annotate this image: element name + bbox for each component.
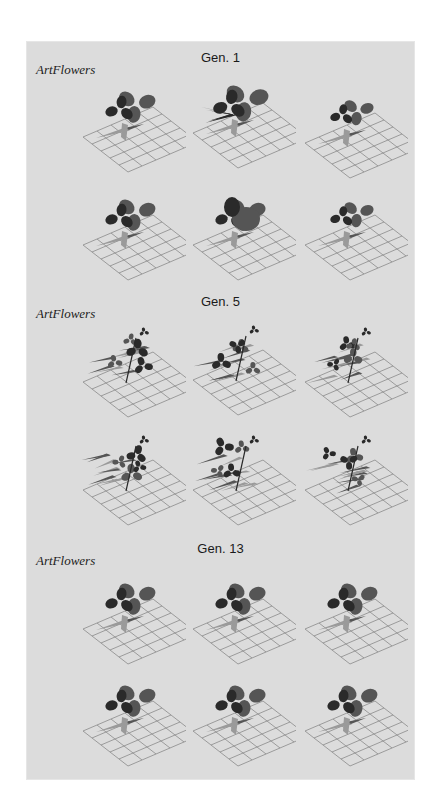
flower-specimen: [66, 181, 186, 291]
flower-render: [66, 426, 186, 536]
flower-render: [288, 181, 408, 291]
flower-specimen: [176, 667, 296, 777]
flower-specimen: [66, 565, 186, 675]
flower-specimen: [176, 426, 296, 536]
flower-render: [288, 565, 408, 675]
flower-render: [288, 667, 408, 777]
figure-panel: Gen. 1 ArtFlowers Gen. 5 ArtFlowers Gen.…: [26, 41, 415, 780]
flower-specimen: [288, 426, 408, 536]
flower-specimen: [288, 181, 408, 291]
flower-specimen: [288, 318, 408, 428]
flower-render: [288, 318, 408, 428]
section-gen-5: Gen. 5 ArtFlowers: [26, 286, 415, 532]
flower-render: [176, 316, 296, 426]
flower-render: [66, 318, 186, 428]
flower-specimen: [66, 318, 186, 428]
flower-specimen: [176, 181, 296, 291]
flower-render: [176, 426, 296, 536]
section-gen-13: Gen. 13 ArtFlowers: [26, 531, 415, 777]
flower-specimen: [176, 69, 296, 179]
flower-specimen: [176, 316, 296, 426]
flower-specimen: [288, 667, 408, 777]
section-gen-1: Gen. 1 ArtFlowers: [26, 41, 415, 287]
flower-specimen: [288, 565, 408, 675]
flower-render: [176, 667, 296, 777]
flower-render: [66, 565, 186, 675]
flower-specimen: [66, 667, 186, 777]
flower-render: [176, 565, 296, 675]
flower-specimen: [66, 426, 186, 536]
flower-specimen: [288, 79, 408, 189]
flower-render: [66, 73, 186, 183]
flower-render: [66, 181, 186, 291]
flower-render: [288, 426, 408, 536]
flower-specimen: [176, 565, 296, 675]
flower-render: [176, 69, 296, 179]
flower-specimen: [66, 73, 186, 183]
flower-render: [66, 667, 186, 777]
flower-render: [176, 181, 296, 291]
flower-render: [288, 79, 408, 189]
